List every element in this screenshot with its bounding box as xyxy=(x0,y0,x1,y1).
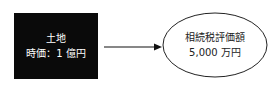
source-label: 土地 xyxy=(46,31,66,46)
arrow-head-icon xyxy=(154,44,162,51)
target-value: 5,000 万円 xyxy=(189,45,241,60)
target-label: 相続税評価額 xyxy=(185,30,245,45)
source-box: 土地 時価：1 億円 xyxy=(14,13,98,79)
target-node: 相続税評価額 5,000 万円 xyxy=(163,13,267,77)
source-value: 時価：1 億円 xyxy=(26,46,86,61)
